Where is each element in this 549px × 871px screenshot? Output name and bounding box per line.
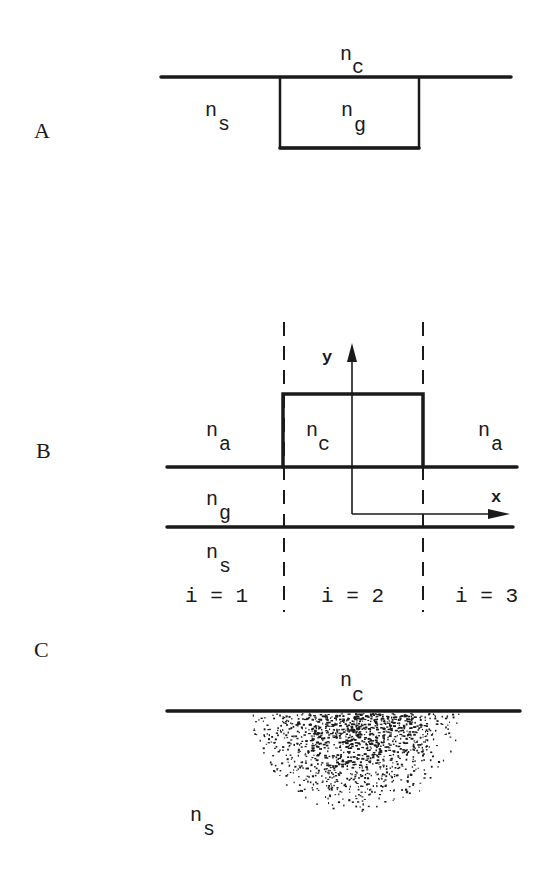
ridge-core-box — [283, 394, 423, 467]
svg-text:g: g — [354, 114, 366, 137]
svg-text:n: n — [206, 419, 218, 442]
svg-text:n: n — [478, 419, 490, 442]
index-label-ng: n g — [341, 99, 366, 137]
svg-text:n: n — [306, 419, 318, 442]
index-label-ng: n g — [206, 488, 231, 525]
svg-text:n: n — [190, 804, 202, 827]
svg-text:a: a — [491, 433, 503, 456]
svg-text:c: c — [318, 433, 330, 456]
panel-c: C n c n s — [34, 637, 520, 841]
x-axis-label: x — [491, 488, 501, 507]
region-label-3: i = 3 — [455, 585, 518, 608]
svg-text:s: s — [219, 555, 231, 578]
svg-text:n: n — [340, 669, 352, 692]
panel-a: A n c n s n g — [34, 43, 511, 148]
svg-text:n: n — [205, 99, 217, 122]
index-label-nc: n c — [340, 669, 364, 707]
index-label-ns: n s — [205, 99, 230, 136]
svg-text:c: c — [352, 56, 364, 79]
panel-label-c: C — [34, 637, 49, 662]
diffused-region-stipple — [253, 713, 460, 812]
svg-text:g: g — [219, 502, 231, 525]
panel-label-a: A — [34, 118, 50, 143]
panel-b: B y x n a n c n a n g — [36, 322, 518, 612]
index-label-na-right: n a — [478, 419, 503, 456]
svg-text:c: c — [352, 684, 364, 707]
index-label-nc: n c — [306, 419, 330, 456]
index-label-nc: n c — [340, 43, 364, 79]
svg-text:s: s — [203, 818, 215, 841]
svg-text:s: s — [218, 113, 230, 136]
x-axis-arrow-icon — [488, 509, 510, 519]
index-label-ns: n s — [190, 804, 215, 841]
index-label-ns: n s — [206, 541, 231, 578]
svg-text:n: n — [340, 43, 352, 66]
y-axis-arrow-icon — [347, 343, 357, 362]
svg-text:a: a — [219, 433, 231, 456]
region-label-1: i = 1 — [185, 585, 248, 608]
region-label-2: i = 2 — [321, 585, 384, 608]
y-axis-label: y — [322, 348, 332, 367]
waveguide-diagram: A n c n s n g B y x — [0, 0, 549, 871]
svg-text:n: n — [341, 99, 353, 122]
panel-label-b: B — [36, 438, 51, 463]
svg-text:n: n — [206, 541, 218, 564]
index-label-na-left: n a — [206, 419, 231, 456]
svg-text:n: n — [206, 488, 218, 511]
